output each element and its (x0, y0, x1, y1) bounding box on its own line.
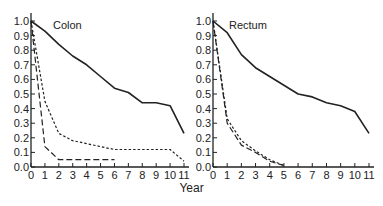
y-tick-label: 0.4 (196, 103, 211, 115)
x-tick-label: 7 (125, 169, 131, 181)
y-tick-label: 0.9 (196, 30, 211, 42)
series-long-dash-line (213, 21, 284, 166)
y-tick-label: 0.1 (196, 146, 211, 158)
y-tick-label: 0.3 (196, 117, 211, 129)
y-tick-label: 0.6 (14, 73, 29, 85)
x-tick-label: 9 (338, 169, 344, 181)
x-tick-label: 8 (139, 169, 145, 181)
x-tick-label: 10 (349, 169, 361, 181)
y-tick-label: 0.7 (14, 59, 29, 71)
x-tick-label: 1 (42, 169, 48, 181)
x-tick-label: 0 (28, 169, 34, 181)
series-solid-line (213, 21, 369, 133)
x-tick-label: 4 (267, 169, 273, 181)
y-tick-label: 0.8 (196, 44, 211, 56)
x-tick-label: 11 (363, 169, 374, 181)
rectum-title: Rectum (229, 19, 267, 31)
y-tick-label: 0.1 (14, 146, 29, 158)
y-tick-label: 0.0 (14, 161, 29, 173)
figure: 0.00.10.20.30.40.50.60.70.80.91.00123456… (0, 0, 383, 206)
x-tick-label: 3 (252, 169, 258, 181)
x-tick-label: 4 (84, 169, 90, 181)
y-tick-label: 0.0 (196, 161, 211, 173)
x-tick-label: 7 (309, 169, 315, 181)
y-tick-label: 0.5 (14, 88, 29, 100)
y-tick-label: 1.0 (14, 15, 29, 27)
x-tick-label: 0 (210, 169, 216, 181)
x-tick-label: 6 (295, 169, 301, 181)
y-tick-label: 0.5 (196, 88, 211, 100)
rectum-panel: 0.00.10.20.30.40.50.60.70.80.91.00123456… (196, 13, 375, 181)
x-tick-label: 11 (178, 169, 189, 181)
colon-panel: 0.00.10.20.30.40.50.60.70.80.91.00123456… (14, 13, 190, 181)
series-long-dash-line (31, 21, 115, 160)
x-tick-label: 10 (164, 169, 176, 181)
y-tick-label: 0.6 (196, 73, 211, 85)
series-solid-line (31, 21, 184, 133)
y-tick-label: 0.2 (196, 132, 211, 144)
y-tick-label: 0.2 (14, 132, 29, 144)
x-tick-label: 5 (97, 169, 103, 181)
x-tick-label: 1 (224, 169, 230, 181)
y-tick-label: 0.7 (196, 59, 211, 71)
x-tick-label: 6 (111, 169, 117, 181)
y-tick-label: 0.4 (14, 103, 29, 115)
x-tick-label: 8 (323, 169, 329, 181)
y-tick-label: 0.3 (14, 117, 29, 129)
series-short-dash-line (31, 21, 184, 161)
y-tick-label: 1.0 (196, 15, 211, 27)
colon-title: Colon (53, 19, 82, 31)
x-tick-label: 3 (70, 169, 76, 181)
y-tick-label: 0.9 (14, 30, 29, 42)
y-tick-label: 0.8 (14, 44, 29, 56)
x-tick-label: 2 (56, 169, 62, 181)
x-axis-label: Year (0, 181, 383, 195)
x-tick-label: 5 (281, 169, 287, 181)
chart-canvas: 0.00.10.20.30.40.50.60.70.80.91.00123456… (0, 0, 383, 206)
x-tick-label: 9 (153, 169, 159, 181)
x-tick-label: 2 (238, 169, 244, 181)
